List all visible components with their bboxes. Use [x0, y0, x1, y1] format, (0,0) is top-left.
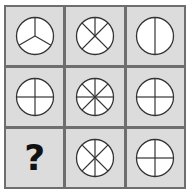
divided-circle-icon	[135, 138, 175, 178]
cell-r2c3	[127, 68, 184, 126]
divided-circle-icon	[75, 77, 115, 117]
divided-circle-icon	[135, 16, 175, 56]
divided-circle-icon	[15, 77, 55, 117]
cell-r3c2	[66, 129, 123, 187]
cell-r2c1	[6, 68, 63, 126]
cell-r1c2	[66, 7, 123, 65]
cell-r3c1[interactable]: ?	[6, 129, 63, 187]
divided-circle-icon	[15, 16, 55, 56]
puzzle-grid: ?	[4, 5, 186, 189]
cell-r2c2	[66, 68, 123, 126]
divided-circle-icon	[135, 77, 175, 117]
question-mark: ?	[24, 140, 45, 176]
divided-circle-icon	[75, 16, 115, 56]
cell-r1c1	[6, 7, 63, 65]
divided-circle-icon	[75, 138, 115, 178]
cell-r1c3	[127, 7, 184, 65]
cell-r3c3	[127, 129, 184, 187]
